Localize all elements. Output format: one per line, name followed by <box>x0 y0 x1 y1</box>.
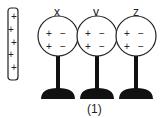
sphere-y: y + + − − <box>77 5 117 99</box>
figure-caption: (1) <box>87 102 102 116</box>
rod-charge-plus: + <box>8 49 14 60</box>
svg-text:+: + <box>46 28 52 39</box>
charged-rod: + + + + + <box>8 8 18 80</box>
svg-text:+: + <box>46 41 52 52</box>
sphere-z: z + + − − <box>116 5 156 99</box>
svg-text:−: − <box>99 41 105 52</box>
diagram-canvas: + + + + + x + + − − y + + − − z + + − − … <box>0 0 163 118</box>
svg-text:−: − <box>138 41 144 52</box>
svg-text:−: − <box>99 28 105 39</box>
svg-text:+: + <box>124 41 130 52</box>
rod-charge-plus: + <box>8 24 14 35</box>
rod-charge-plus: + <box>11 62 17 73</box>
svg-text:+: + <box>85 28 91 39</box>
rod-charge-plus: + <box>11 11 17 22</box>
stand-base <box>80 88 114 99</box>
stand-base <box>119 88 153 99</box>
svg-text:−: − <box>60 41 66 52</box>
svg-text:+: + <box>85 41 91 52</box>
sphere-x: x + + − − <box>38 5 78 99</box>
svg-text:+: + <box>124 28 130 39</box>
svg-text:−: − <box>138 28 144 39</box>
rod-charge-plus: + <box>11 37 17 48</box>
svg-text:−: − <box>60 28 66 39</box>
stand-base <box>41 88 75 99</box>
